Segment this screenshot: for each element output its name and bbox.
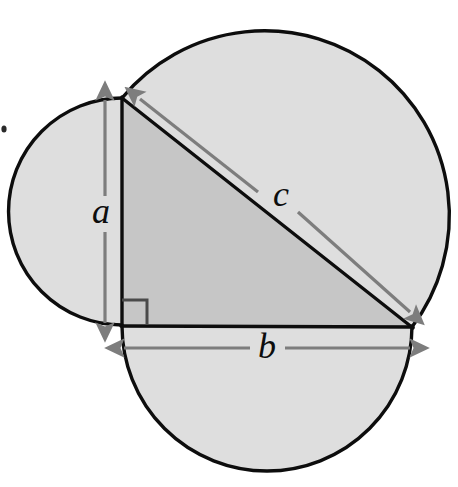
figure-canvas: a b c xyxy=(0,0,458,487)
label-side-c: c xyxy=(273,174,289,214)
pythagoras-semicircle-figure: a b c xyxy=(0,0,458,487)
label-side-a: a xyxy=(92,191,110,231)
label-side-b: b xyxy=(258,326,276,366)
scan-speck-artifact xyxy=(1,125,6,132)
